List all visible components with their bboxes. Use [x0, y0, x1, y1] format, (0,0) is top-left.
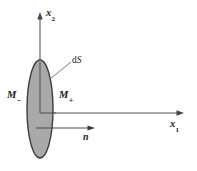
media-plus-label-base: M [59, 89, 68, 100]
ds-leader-line [50, 62, 71, 79]
x2-axis-label: x2 [46, 8, 55, 21]
x1-axis-arrowhead [177, 110, 185, 115]
media-minus-label-subscript: − [17, 96, 22, 105]
surface-element-label-symbol: S [77, 55, 82, 65]
normal-vector-label: n [83, 132, 89, 142]
surface-element-label: dS [72, 56, 82, 66]
x2-axis-arrowhead [37, 12, 42, 20]
media-minus-label: M− [7, 90, 21, 103]
media-plus-label-subscript: + [69, 96, 74, 105]
x1-axis-label-subscript: 1 [176, 126, 180, 134]
diagram-svg [0, 0, 197, 171]
media-minus-label-base: M [7, 89, 16, 100]
x1-axis-label-base: x [170, 118, 175, 129]
normal-vector-arrowhead [88, 125, 96, 130]
x1-axis-label: x1 [170, 119, 179, 132]
x2-axis-label-subscript: 2 [52, 15, 56, 23]
media-plus-label: M+ [59, 90, 73, 103]
figure-canvas: x2 x1 dS M− M+ n [0, 0, 197, 171]
x2-axis-label-base: x [46, 7, 51, 18]
x1-axis [40, 110, 184, 115]
